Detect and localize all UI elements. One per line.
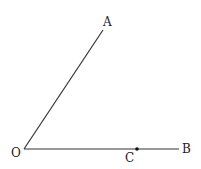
label-a: A [102, 15, 112, 29]
label-c: C [125, 151, 134, 165]
label-b: B [182, 142, 191, 156]
angle-diagram: A B C O [0, 0, 201, 169]
point-c-dot [135, 147, 139, 151]
label-o: O [11, 146, 21, 160]
ray-oa [24, 30, 103, 149]
